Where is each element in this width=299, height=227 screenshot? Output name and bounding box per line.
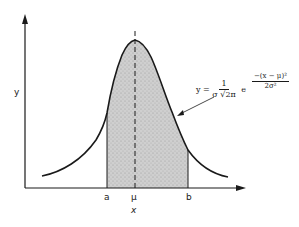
y-axis-arrow-icon <box>22 14 28 24</box>
marker-a: a <box>104 193 110 202</box>
exponent-denominator: 2σ² <box>264 82 276 90</box>
formula-leader-line <box>180 97 214 114</box>
formula-base-e: e <box>241 85 246 94</box>
exponent-numerator: −(x − μ)² <box>252 73 289 82</box>
normal-pdf-formula: y = 1 σ √2π e <box>196 80 246 99</box>
y-axis-label: y <box>14 88 19 97</box>
x-axis-arrow-icon <box>236 185 246 191</box>
leader-arrow-icon <box>177 110 184 116</box>
normal-distribution-figure: y x a μ b y = 1 σ √2π e −(x − μ)² 2σ² <box>0 0 299 227</box>
formula-lhs: y = <box>196 85 210 94</box>
marker-b: b <box>186 193 192 202</box>
coefficient-denominator: σ √2π <box>212 90 235 99</box>
x-axis-label: x <box>131 206 136 215</box>
formula-coefficient: 1 σ √2π <box>212 80 235 99</box>
coefficient-numerator: 1 <box>219 80 228 90</box>
formula-exponent: −(x − μ)² 2σ² <box>252 73 289 90</box>
figure-canvas <box>0 0 299 227</box>
marker-mu: μ <box>131 193 137 202</box>
